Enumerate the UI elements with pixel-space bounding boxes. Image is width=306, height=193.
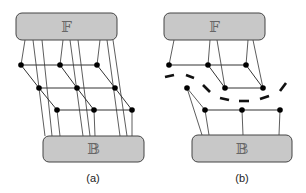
node: [112, 85, 118, 91]
node: [184, 85, 190, 91]
top-edges-b: [169, 40, 263, 88]
bottom-edges-b: [187, 88, 280, 135]
node: [129, 107, 135, 113]
bottom-edges-a: [57, 110, 132, 136]
node: [205, 62, 211, 68]
top-box-label-b: 𝔽: [209, 18, 220, 36]
node: [166, 62, 172, 68]
node: [260, 85, 266, 91]
node: [36, 85, 42, 91]
caption-a: (a): [86, 172, 99, 184]
diagram-canvas: 𝔽 𝔹 (a): [0, 0, 306, 193]
node: [57, 62, 63, 68]
node: [277, 107, 283, 113]
panel-b: 𝔽 𝔹 (b): [164, 13, 292, 184]
node: [222, 85, 228, 91]
node: [94, 62, 100, 68]
nodes-b: [166, 62, 283, 113]
node: [243, 62, 249, 68]
bottom-box-label-b: 𝔹: [236, 140, 249, 158]
panel-a: 𝔽 𝔹 (a): [16, 13, 144, 184]
node: [239, 107, 245, 113]
node: [18, 62, 24, 68]
node: [91, 107, 97, 113]
caption-b: (b): [235, 172, 248, 184]
bottom-box-label-a: 𝔹: [87, 140, 100, 158]
bottom-box-b: 𝔹: [192, 135, 292, 162]
top-box-label-a: 𝔽: [61, 18, 72, 36]
top-edges-a: [21, 40, 100, 65]
top-box-a: 𝔽: [16, 13, 117, 40]
node: [74, 85, 80, 91]
node: [202, 107, 208, 113]
node: [54, 107, 60, 113]
top-box-b: 𝔽: [164, 13, 265, 40]
bottom-box-a: 𝔹: [43, 136, 144, 162]
